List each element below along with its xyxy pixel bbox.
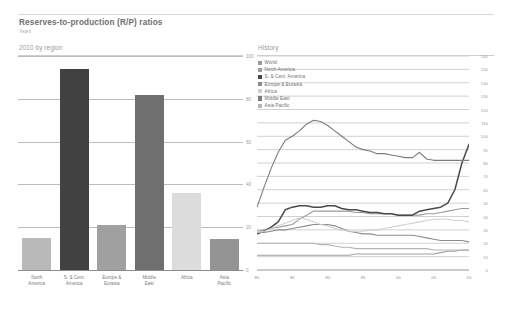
legend-item-label: Middle East [265, 96, 290, 101]
bar-gridline [18, 184, 243, 185]
bar-gridline [18, 270, 243, 271]
page-subtitle: Years [19, 29, 31, 34]
bar-category-label: Africa [168, 275, 206, 281]
line-y-tick-label: 30 [472, 227, 488, 232]
line-series [257, 144, 469, 234]
bar-category-label: S. & Cent. America [56, 275, 94, 286]
line-y-tick-label: 110 [472, 120, 488, 125]
line-x-tick-label: 80 [255, 275, 260, 280]
bar-y-tick-label: 40 [246, 182, 251, 187]
line-y-tick-label: 100 [472, 134, 488, 139]
line-x-tick-label: 05 [431, 275, 436, 280]
page-title: Reserves-to-production (R/P) ratios [19, 18, 163, 27]
line-y-tick-label: 40 [472, 214, 488, 219]
bar-category-label: North America [18, 275, 56, 286]
line-y-tick-label: 80 [472, 161, 488, 166]
line-x-tick-label: 10 [467, 275, 472, 280]
bar-chart: 020406080100North AmericaS. & Cent. Amer… [18, 56, 243, 290]
bar-y-tick-label: 60 [246, 139, 251, 144]
legend-item-label: S. & Cent. America [265, 74, 306, 79]
bar [97, 225, 126, 270]
line-y-tick-label: 50 [472, 201, 488, 206]
bar-gridline [18, 56, 243, 57]
line-y-tick-label: 60 [472, 187, 488, 192]
bar-y-tick-label: 80 [246, 96, 251, 101]
line-chart-legend: WorldNorth AmericaS. & Cent. AmericaEuro… [258, 59, 305, 109]
line-y-tick-label: 10 [472, 254, 488, 259]
line-x-tick-label: 85 [290, 275, 295, 280]
legend-swatch-icon [258, 96, 262, 100]
legend-swatch-icon [258, 75, 262, 79]
line-series [257, 250, 469, 255]
chart-page: Reserves-to-production (R/P) ratios Year… [0, 0, 512, 327]
bar-gridline [18, 142, 243, 143]
bar-category-label: Middle East [131, 275, 169, 286]
line-y-tick-label: 150 [472, 67, 488, 72]
line-y-tick-label: 70 [472, 174, 488, 179]
bar [22, 238, 51, 270]
header-divider [18, 14, 494, 15]
line-x-tick-label: 95 [361, 275, 366, 280]
bar [172, 193, 201, 270]
bar-y-tick-label: 20 [246, 225, 251, 230]
left-panel-heading: 2010 by region [19, 44, 63, 51]
legend-swatch-icon [258, 104, 262, 108]
line-y-tick-label: 140 [472, 80, 488, 85]
bar [135, 95, 164, 270]
line-y-tick-label: 130 [472, 94, 488, 99]
bar-gridline [18, 99, 243, 100]
bar [210, 239, 239, 270]
legend-item[interactable]: Africa [258, 88, 305, 95]
line-y-tick-label: 90 [472, 147, 488, 152]
legend-item[interactable]: Middle East [258, 95, 305, 102]
bar-gridline [18, 227, 243, 228]
legend-item[interactable]: Europe & Eurasia [258, 81, 305, 88]
bar-y-tick-label: 0 [246, 268, 249, 273]
legend-item[interactable]: World [258, 59, 305, 66]
legend-item[interactable]: North America [258, 66, 305, 73]
line-x-tick-label: 90 [325, 275, 330, 280]
legend-item-label: World [265, 60, 277, 65]
bar [60, 69, 89, 270]
line-x-tick-label: 00 [396, 275, 401, 280]
line-y-tick-label: 120 [472, 107, 488, 112]
legend-item-label: Africa [265, 89, 277, 94]
legend-item[interactable]: Asia Pacific [258, 102, 305, 109]
bar-category-label: Europe & Eurasia [93, 275, 131, 286]
right-panel-heading: History [258, 44, 279, 51]
bar-category-label: Asia Pacific [206, 275, 244, 286]
legend-item-label: Europe & Eurasia [265, 82, 303, 87]
legend-item[interactable]: S. & Cent. America [258, 73, 305, 80]
line-y-tick-label: 160 [472, 54, 488, 59]
legend-swatch-icon [258, 61, 262, 65]
line-series [257, 120, 469, 207]
line-y-tick-label: 20 [472, 241, 488, 246]
line-y-tick-label: 0 [472, 268, 488, 273]
legend-item-label: North America [265, 67, 295, 72]
legend-item-label: Asia Pacific [265, 103, 290, 108]
line-series [257, 243, 469, 250]
legend-swatch-icon [258, 82, 262, 86]
legend-swatch-icon [258, 89, 262, 93]
bar-y-tick-label: 100 [246, 54, 254, 59]
legend-swatch-icon [258, 68, 262, 72]
line-series [257, 225, 469, 242]
